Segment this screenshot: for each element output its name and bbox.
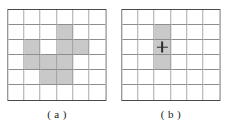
grid-cell (25, 85, 41, 100)
panel-b: ( b ) (114, 0, 228, 132)
grid-cell (171, 10, 187, 25)
grid-cell (41, 10, 57, 25)
grid-cell (8, 70, 24, 85)
grid-cell (8, 40, 24, 55)
grid-b (121, 9, 220, 101)
grid-cell (122, 85, 138, 100)
grid-cell (89, 70, 105, 85)
grid-cell (139, 10, 155, 25)
grid-cell (25, 10, 41, 25)
grid-cell (41, 40, 57, 55)
grid-cell (89, 40, 105, 55)
grid-cell (187, 70, 203, 85)
grid-cell (57, 85, 73, 100)
grid-cell (122, 40, 138, 55)
grid-cell (89, 85, 105, 100)
grid-cell (187, 25, 203, 40)
grid-cell (203, 10, 219, 25)
grid-cell (187, 40, 203, 55)
grid-a (7, 9, 106, 101)
grid-cell-shaded (57, 70, 73, 85)
grid-cell (139, 85, 155, 100)
grid-cell-shaded (57, 25, 73, 40)
grid-wrapper-b (121, 9, 220, 101)
grid-cell (203, 70, 219, 85)
grid-cell-shaded (25, 40, 41, 55)
grid-cell (187, 55, 203, 70)
grid-cell-shaded (57, 40, 73, 55)
grid-cell (73, 10, 89, 25)
grid-cell (122, 70, 138, 85)
grid-cell-shaded (155, 55, 171, 70)
plus-marker (157, 42, 168, 53)
grid-cell (171, 40, 187, 55)
panel-a: ( a ) (0, 0, 114, 132)
grid-cell (89, 55, 105, 70)
grid-cell (171, 85, 187, 100)
grid-cell (139, 55, 155, 70)
grid-cell (122, 55, 138, 70)
figure-root: ( a ) ( b ) (0, 0, 228, 132)
grid-cell (73, 70, 89, 85)
grid-cell (155, 10, 171, 25)
grid-cell (187, 10, 203, 25)
grid-cell (122, 10, 138, 25)
grid-cell (171, 25, 187, 40)
grid-cell (8, 25, 24, 40)
caption-b: ( b ) (114, 108, 228, 120)
grid-cell (155, 70, 171, 85)
grid-cell (155, 85, 171, 100)
grid-cell (73, 25, 89, 40)
grid-cell-shaded (73, 40, 89, 55)
grid-cell (73, 85, 89, 100)
grid-cell (139, 70, 155, 85)
grid-cell (171, 55, 187, 70)
grid-cell (171, 70, 187, 85)
grid-cell (139, 40, 155, 55)
grid-cell (89, 25, 105, 40)
grid-cell-shaded (57, 55, 73, 70)
grid-cell (122, 25, 138, 40)
grid-cell (139, 25, 155, 40)
grid-cell-shaded (41, 55, 57, 70)
grid-cell (8, 10, 24, 25)
grid-cell-shaded (155, 40, 171, 55)
grid-cell-shaded (41, 70, 57, 85)
grid-cell (187, 85, 203, 100)
grid-cell (41, 85, 57, 100)
grid-cell (89, 10, 105, 25)
grid-wrapper-a (7, 9, 106, 101)
grid-cell (25, 70, 41, 85)
grid-cell (203, 85, 219, 100)
grid-cell-shaded (155, 25, 171, 40)
grid-cell (57, 10, 73, 25)
grid-cell (203, 55, 219, 70)
grid-cell (25, 25, 41, 40)
grid-cell (8, 55, 24, 70)
grid-cell (203, 25, 219, 40)
grid-cell (41, 25, 57, 40)
caption-a: ( a ) (0, 108, 114, 120)
grid-cell-shaded (25, 55, 41, 70)
grid-cell (73, 55, 89, 70)
grid-cell (8, 85, 24, 100)
grid-cell (203, 40, 219, 55)
